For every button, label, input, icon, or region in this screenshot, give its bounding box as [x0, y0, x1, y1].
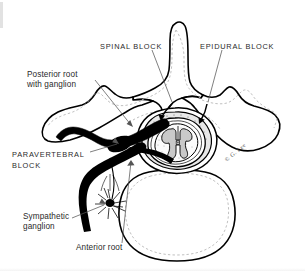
label-paravertebral-block-line2: BLOCK	[12, 161, 41, 170]
label-posterior-root-line2: with ganglion	[27, 80, 76, 90]
central-canal-core	[177, 142, 178, 143]
label-sympathetic-ganglion-line1: Sympathetic	[23, 212, 69, 222]
label-posterior-root-line1: Posterior root	[27, 70, 78, 80]
spinal-canal	[137, 108, 217, 173]
label-sympathetic-ganglion-line2: ganglion	[23, 222, 55, 232]
anterior-root-arrowhead	[127, 160, 134, 166]
scan-edge-artifact	[0, 2, 3, 28]
label-spinal-block: SPINAL BLOCK	[100, 42, 162, 51]
label-epidural-block: EPIDURAL BLOCK	[200, 42, 274, 51]
label-paravertebral-block-line1: PARAVERTEBRAL	[12, 150, 85, 159]
label-anterior-root: Anterior root	[76, 243, 122, 253]
